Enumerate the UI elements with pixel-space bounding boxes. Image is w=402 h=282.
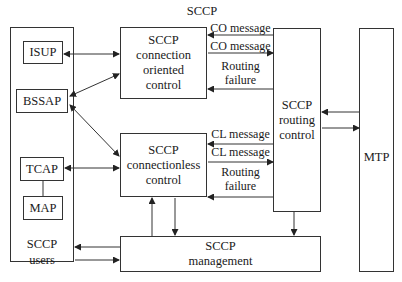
- connector-arrows: [0, 0, 402, 282]
